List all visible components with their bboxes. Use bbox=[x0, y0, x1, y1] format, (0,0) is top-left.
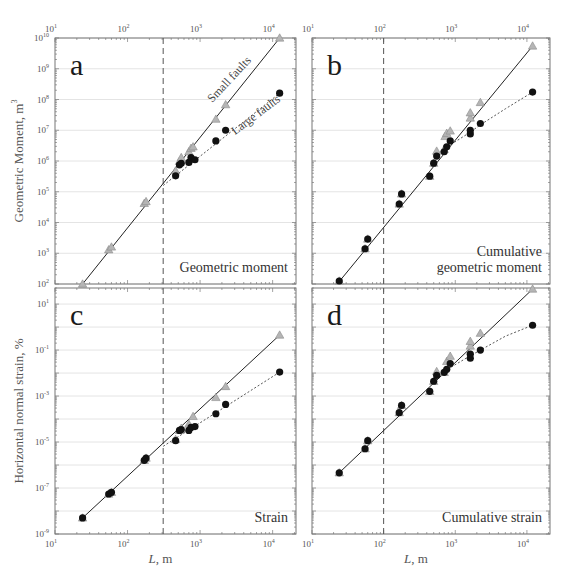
y-axis-title: Horizontal normal strain, % bbox=[11, 338, 26, 483]
panel-annotation: Cumulative bbox=[477, 244, 542, 259]
x-tick-label: 102 bbox=[374, 538, 386, 549]
large-fault-marker bbox=[467, 351, 474, 358]
large-fault-marker bbox=[108, 489, 115, 496]
x-axis-title: L, m bbox=[403, 551, 428, 566]
large-fault-marker bbox=[336, 277, 343, 284]
large-fault-marker bbox=[426, 388, 433, 395]
y-tick-label: 101 bbox=[37, 298, 49, 309]
x-tick-label: 104 bbox=[517, 23, 529, 34]
large-faults-label: Large faults bbox=[228, 92, 283, 138]
large-fault-marker bbox=[79, 514, 86, 521]
y-tick-label: 102 bbox=[37, 278, 49, 289]
panel-b: 101102103104bCumulativegeometric moment bbox=[302, 23, 550, 285]
large-fault-marker bbox=[529, 322, 536, 329]
plot-frame bbox=[55, 288, 296, 534]
y-tick-label: 105 bbox=[37, 186, 49, 197]
x-tick-label: 102 bbox=[118, 23, 130, 34]
large-fault-marker bbox=[276, 368, 283, 375]
y-tick-label: 10-9 bbox=[35, 528, 49, 539]
panel-d: 101102103104L, mdCumulative strain bbox=[302, 285, 550, 566]
y-axis-title: Geometric Moment, m3 bbox=[10, 100, 26, 223]
x-tick-label: 104 bbox=[263, 23, 275, 34]
large-fault-marker bbox=[477, 346, 484, 353]
small-fault-marker bbox=[528, 42, 536, 49]
figure: 1011021031041021031041051061071081091010… bbox=[0, 0, 573, 582]
panel-c: 10110210310410110-110-310-510-710-9Horiz… bbox=[11, 288, 296, 566]
x-axis-title: L, m bbox=[148, 551, 173, 566]
x-tick-label: 102 bbox=[374, 23, 386, 34]
x-tick-label: 101 bbox=[45, 538, 57, 549]
large-fault-marker bbox=[191, 156, 198, 163]
large-fault-marker bbox=[178, 160, 185, 167]
x-tick-label: 103 bbox=[190, 23, 202, 34]
x-tick-label: 103 bbox=[445, 23, 457, 34]
y-tick-label: 10-5 bbox=[35, 436, 49, 447]
large-fault-marker bbox=[142, 454, 149, 461]
small-fault-marker bbox=[275, 34, 283, 41]
large-fault-marker bbox=[361, 445, 368, 452]
panel-annotation: geometric moment bbox=[437, 260, 542, 275]
y-tick-label: 107 bbox=[37, 124, 49, 135]
large-fault-marker bbox=[172, 172, 179, 179]
large-fault-marker bbox=[361, 245, 368, 252]
x-tick-label: 101 bbox=[302, 23, 314, 34]
x-tick-label: 102 bbox=[118, 538, 130, 549]
large-fault-marker bbox=[447, 360, 454, 367]
large-fault-marker bbox=[398, 190, 405, 197]
large-fault-marker bbox=[172, 437, 179, 444]
large-fault-marker bbox=[426, 173, 433, 180]
y-tick-label: 104 bbox=[37, 217, 49, 228]
panel-a: 1011021031041021031041051061071081091010… bbox=[10, 23, 296, 289]
y-tick-label: 103 bbox=[37, 247, 49, 258]
small-fault-marker bbox=[466, 337, 474, 344]
panel-annotation: Cumulative strain bbox=[442, 510, 542, 525]
large-fault-marker bbox=[212, 410, 219, 417]
small-fault-marker bbox=[446, 352, 454, 359]
large-fault-marker bbox=[396, 200, 403, 207]
y-tick-label: 109 bbox=[37, 63, 49, 74]
large-faults-fit-line bbox=[444, 325, 532, 371]
y-tick-label: 10-1 bbox=[35, 344, 49, 355]
panel-label: b bbox=[327, 48, 342, 81]
large-fault-marker bbox=[178, 426, 185, 433]
y-tick-label: 106 bbox=[37, 155, 49, 166]
plot-frame bbox=[312, 288, 550, 534]
x-tick-label: 104 bbox=[263, 538, 275, 549]
large-fault-marker bbox=[364, 437, 371, 444]
panel-label: d bbox=[327, 298, 342, 331]
x-tick-label: 101 bbox=[302, 538, 314, 549]
y-tick-label: 10-7 bbox=[35, 482, 49, 493]
small-fault-marker bbox=[212, 115, 220, 122]
x-tick-label: 104 bbox=[517, 538, 529, 549]
panel-label: a bbox=[70, 48, 83, 81]
panel-annotation: Strain bbox=[255, 510, 288, 525]
large-fault-marker bbox=[477, 120, 484, 127]
x-tick-label: 103 bbox=[190, 538, 202, 549]
large-fault-marker bbox=[364, 235, 371, 242]
small-fault-marker bbox=[466, 109, 474, 116]
y-tick-label: 108 bbox=[37, 94, 49, 105]
large-fault-marker bbox=[430, 160, 437, 167]
panel-annotation: Geometric moment bbox=[180, 260, 289, 275]
small-fault-marker bbox=[275, 331, 283, 338]
large-fault-marker bbox=[191, 423, 198, 430]
y-tick-label: 1010 bbox=[34, 32, 49, 43]
large-fault-marker bbox=[222, 401, 229, 408]
y-tick-label: 10-3 bbox=[35, 390, 49, 401]
large-fault-marker bbox=[433, 372, 440, 379]
large-faults-fit-line bbox=[163, 372, 280, 446]
large-fault-marker bbox=[336, 469, 343, 476]
large-fault-marker bbox=[396, 409, 403, 416]
large-fault-marker bbox=[433, 152, 440, 159]
small-fault-marker bbox=[476, 329, 484, 336]
large-fault-marker bbox=[529, 89, 536, 96]
large-fault-marker bbox=[212, 137, 219, 144]
large-fault-marker bbox=[467, 127, 474, 134]
x-tick-label: 103 bbox=[445, 538, 457, 549]
large-fault-marker bbox=[447, 137, 454, 144]
small-fault-marker bbox=[221, 382, 229, 389]
small-fault-marker bbox=[528, 285, 536, 292]
panel-label: c bbox=[70, 298, 83, 331]
large-fault-marker bbox=[398, 402, 405, 409]
